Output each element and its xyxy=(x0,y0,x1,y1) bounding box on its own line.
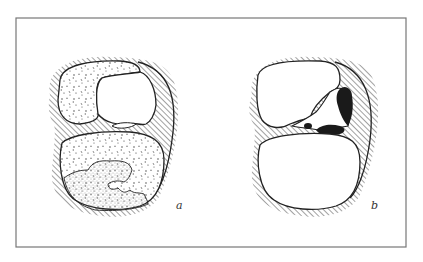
panel-a-label: a xyxy=(176,199,183,212)
illustration xyxy=(0,0,423,262)
panel-b-label: b xyxy=(371,199,378,212)
panel-b-lower-lobe xyxy=(258,133,360,209)
panel-a-upper-cavity xyxy=(97,72,156,125)
figure: a b xyxy=(0,0,423,262)
panel-b xyxy=(249,57,378,217)
panel-a xyxy=(49,57,178,217)
panel-b-dark-structure-small xyxy=(304,123,312,129)
